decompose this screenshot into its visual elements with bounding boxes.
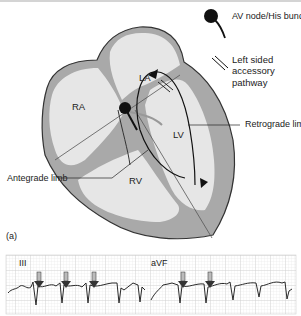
label-lv: LV <box>173 130 184 140</box>
legend-av-node-label: AV node/His bundle <box>232 12 301 21</box>
label-ra: RA <box>72 102 85 112</box>
label-rv: RV <box>129 176 142 186</box>
legend-accessory-label: Left sided accessory pathway <box>232 54 301 88</box>
label-la: LA <box>139 73 151 83</box>
label-antegrade-limb: Antegrade limb <box>7 174 68 183</box>
label-retrograde-limb: Retrograde limb <box>245 120 301 129</box>
heart-diagram <box>0 0 301 316</box>
ecg-lead-iii-label: III <box>19 259 27 268</box>
panel-label: (a) <box>6 232 17 241</box>
ecg-lead-avf-label: aVF <box>151 259 168 268</box>
